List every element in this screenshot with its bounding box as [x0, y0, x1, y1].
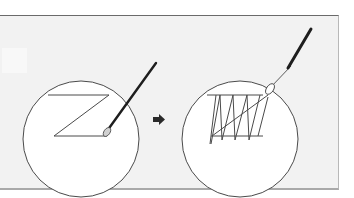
stitch-diagram [0, 0, 354, 198]
step2-magnifier-circle [182, 81, 298, 197]
step1-illustration [23, 63, 156, 197]
step2-illustration [182, 29, 311, 197]
diagram-canvas [0, 0, 354, 198]
step2-needle-icon [264, 29, 311, 96]
step1-magnifier-circle [23, 81, 139, 197]
arrow-right-icon [153, 114, 165, 125]
